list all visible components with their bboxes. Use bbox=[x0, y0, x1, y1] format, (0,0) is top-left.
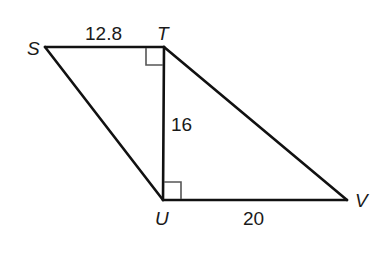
vertex-label-s: S bbox=[27, 38, 40, 59]
vertex-label-v: V bbox=[355, 190, 370, 211]
segment-su bbox=[45, 47, 163, 200]
length-label-tu: 16 bbox=[171, 114, 192, 135]
length-label-uv: 20 bbox=[243, 208, 264, 229]
geometry-diagram: S T U V 12.8 16 20 bbox=[0, 0, 382, 253]
right-angle-marker-u bbox=[164, 182, 181, 199]
right-angle-marker-t bbox=[146, 48, 163, 65]
vertex-label-t: T bbox=[157, 23, 170, 44]
vertex-label-u: U bbox=[155, 208, 169, 229]
segment-tu bbox=[163, 47, 164, 200]
length-label-st: 12.8 bbox=[85, 23, 122, 44]
